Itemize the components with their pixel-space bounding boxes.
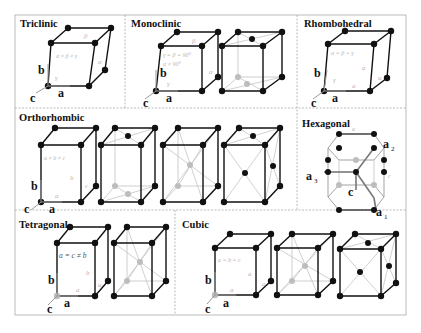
panel-tetragonal: Tetragonal a = c ≠ b b a a b a c	[19, 219, 169, 316]
panel-triclinic: Triclinic α ≠ β ≠ γ β α γ b a c	[20, 18, 114, 105]
lattice-relation: γ = β = 90°	[163, 52, 191, 58]
panel-cubic: Cubic a = b = c a a a b a c	[182, 219, 399, 316]
panel-title: Triclinic	[20, 18, 58, 29]
panel-monoclinic: Monoclinic γ = β = 90° α ≠ 90° β α γ b a…	[131, 18, 285, 110]
lattice-relation: a = b = c	[218, 257, 241, 263]
edge-label-a: a	[352, 126, 355, 132]
edge-label-a: a	[352, 82, 356, 90]
edge-label-a: a	[55, 192, 59, 200]
axis-label-a3: a 3	[306, 169, 318, 185]
svg-text:a: a	[376, 205, 382, 219]
unit-cell-face-centered	[337, 231, 399, 299]
panel-hexagonal: Hexagonal a c	[302, 118, 395, 221]
figure-frame	[15, 15, 406, 315]
axis-label-b: b	[160, 66, 167, 80]
hexagonal-prism	[324, 131, 387, 213]
panel-title: Monoclinic	[131, 18, 182, 29]
edge-label-c: c	[388, 173, 391, 179]
lattice-relation: α = β = γ	[331, 50, 354, 56]
angle-beta: β	[191, 37, 196, 45]
unit-cell-body-centered	[274, 231, 336, 298]
panel-rhombohedral: Rhombohedral α = β = γ a a a γ b a c	[304, 18, 394, 110]
axis-label-c: c	[205, 302, 211, 316]
edge-label-b: b	[86, 269, 90, 277]
axis-label-b: b	[38, 63, 45, 77]
unit-cell-primitive	[38, 125, 99, 205]
edge-label-c: c	[85, 182, 89, 190]
panel-title: Rhombohedral	[304, 18, 372, 29]
axis-label-a: a	[166, 91, 172, 105]
edge-label-a: a	[98, 281, 102, 289]
svg-text:3: 3	[314, 177, 318, 185]
svg-text:a: a	[306, 169, 312, 183]
svg-text:2: 2	[391, 145, 395, 153]
axis-label-b: b	[314, 66, 321, 80]
axis-label-a: a	[223, 296, 229, 310]
svg-text:a: a	[383, 137, 389, 151]
unit-cell-body-centered	[111, 224, 169, 299]
edge-label-a: a	[362, 64, 366, 72]
unit-cell-primitive	[212, 231, 274, 298]
axis-label-a: a	[49, 202, 55, 216]
panel-orthorhombic: Orthorhombic a ≠ b ≠ c b c a b a c	[19, 112, 283, 216]
axis-label-c: c	[47, 302, 53, 316]
angle-gamma: γ	[333, 76, 336, 84]
panel-title: Cubic	[182, 219, 209, 230]
edge-label-a: a	[378, 74, 382, 82]
unit-cell-body-centered	[160, 125, 221, 205]
axis-label-c: c	[143, 96, 149, 110]
edge-label-a: a	[248, 270, 252, 278]
axis-label-c: c	[30, 91, 36, 105]
angle-gamma: γ	[55, 74, 58, 82]
angle-beta: β	[83, 32, 88, 40]
axis-label-a: a	[332, 91, 338, 105]
axis-label-b: b	[48, 273, 55, 287]
axis-label-c: c	[311, 96, 317, 110]
angle-alpha: α	[98, 58, 102, 66]
edge-label-a: a	[76, 286, 80, 294]
unit-cell-primitive	[54, 224, 111, 299]
unit-cell	[321, 28, 394, 94]
edge-label-a: a	[262, 280, 266, 288]
panel-title: Tetragonal	[19, 219, 68, 230]
unit-cell-base-centered	[219, 29, 285, 94]
axis-label-a1: a 1	[376, 205, 388, 221]
axis-label-a: a	[58, 86, 64, 100]
axis-label-c: c	[24, 202, 30, 216]
edge-label-b: b	[70, 174, 74, 182]
axis-label-b: b	[31, 179, 38, 193]
unit-cell-base-centered	[98, 125, 158, 205]
angle-alpha: α	[209, 68, 213, 76]
axis-label-a: a	[64, 296, 70, 310]
edge-label-a: a	[230, 286, 234, 294]
panel-title: Hexagonal	[302, 118, 350, 129]
axis-label-a2: a 2	[383, 137, 395, 153]
lattice-relation: α ≠ β ≠ γ	[56, 53, 78, 59]
lattice-relation: a = c ≠ b	[59, 251, 87, 260]
crystal-systems-figure: Triclinic α ≠ β ≠ γ β α γ b a c Monoclin…	[0, 0, 421, 333]
axis-label-c: c	[348, 185, 354, 199]
unit-cell-face-centered	[221, 125, 283, 205]
lattice-relation: a ≠ b ≠ c	[44, 155, 66, 161]
panel-title: Orthorhombic	[19, 112, 85, 123]
angle-gamma: γ	[167, 80, 170, 88]
svg-text:1: 1	[384, 213, 388, 221]
axis-label-b: b	[205, 273, 212, 287]
